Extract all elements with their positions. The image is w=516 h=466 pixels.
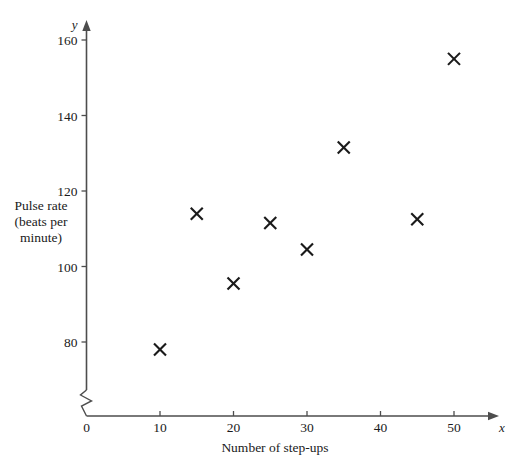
plot-area: 8010012014016001020304050 yxNumber of st… <box>0 0 516 466</box>
x-tick-label: 30 <box>300 420 314 435</box>
data-point-marker <box>411 213 423 225</box>
x-axis-title: Number of step-ups <box>221 440 328 455</box>
scatter-chart: Pulse rate(beats perminute) 801001201401… <box>0 0 516 466</box>
data-point-marker <box>228 277 240 289</box>
ticks-group <box>82 40 455 416</box>
y-tick-label: 140 <box>57 109 78 124</box>
axes-group <box>81 20 500 420</box>
x-tick-label: 50 <box>447 420 461 435</box>
axis-break-icon <box>81 390 92 416</box>
data-points-group <box>154 53 460 356</box>
x-tick-label: 40 <box>374 420 388 435</box>
y-tick-label: 100 <box>57 260 78 275</box>
y-axis-variable-label: y <box>70 17 78 32</box>
data-point-marker <box>448 53 460 65</box>
axis-titles-group: yxNumber of step-ups <box>70 17 505 455</box>
data-point-marker <box>338 142 350 154</box>
x-tick-label: 10 <box>153 420 167 435</box>
x-tick-label: 0 <box>83 420 90 435</box>
x-tick-label: 20 <box>227 420 241 435</box>
data-point-marker <box>191 208 203 220</box>
y-axis-arrow-icon <box>82 20 90 31</box>
tick-labels-group: 8010012014016001020304050 <box>57 33 461 435</box>
y-tick-label: 160 <box>57 33 78 48</box>
y-tick-label: 120 <box>57 184 78 199</box>
data-point-marker <box>264 217 276 229</box>
y-tick-label: 80 <box>64 335 78 350</box>
data-point-marker <box>301 244 313 256</box>
x-axis-variable-label: x <box>498 420 505 435</box>
data-point-marker <box>154 344 166 356</box>
x-axis-arrow-icon <box>488 412 499 420</box>
